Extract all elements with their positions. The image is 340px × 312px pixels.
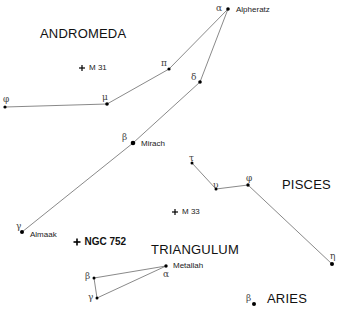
constellation-line xyxy=(133,82,200,143)
star-tri-alpha xyxy=(164,264,167,267)
stars xyxy=(3,7,334,306)
greek-letter-label: γ xyxy=(88,293,93,302)
greek-letter-label: β xyxy=(122,133,127,142)
greek-letter-label: α xyxy=(216,4,222,13)
constellation-name: ARIES xyxy=(267,292,307,305)
star-chart xyxy=(0,0,340,312)
star-name-label: Metallah xyxy=(173,262,203,270)
constellation-line xyxy=(22,143,133,232)
star-and-pi xyxy=(167,67,170,70)
greek-letter-label: τ xyxy=(189,154,194,163)
star-psc-phi xyxy=(246,183,249,186)
deep-sky-label-ngc752: NGC 752 xyxy=(85,237,127,247)
star-psc-eta xyxy=(330,262,334,266)
star-tri-gamma xyxy=(96,297,99,300)
constellation-name: PISCES xyxy=(282,178,331,191)
constellation-line xyxy=(94,278,97,298)
constellation-line xyxy=(200,9,228,82)
star-and-alpha xyxy=(226,7,230,11)
greek-letter-label: β xyxy=(85,272,90,281)
greek-letter-label: δ xyxy=(191,73,196,82)
constellation-line xyxy=(248,185,332,264)
constellation-line xyxy=(169,9,228,69)
greek-letter-label: η xyxy=(330,252,335,261)
constellation-line xyxy=(97,266,166,298)
constellation-line xyxy=(216,185,248,189)
star-and-beta xyxy=(131,141,136,146)
constellation-name: ANDROMEDA xyxy=(40,27,126,40)
star-and-phi xyxy=(3,105,6,108)
star-name-label: Alpheratz xyxy=(236,6,270,14)
star-and-mu xyxy=(105,102,109,106)
constellation-line xyxy=(94,266,166,278)
greek-letter-label: φ xyxy=(246,174,252,183)
star-name-label: Mirach xyxy=(141,140,165,148)
greek-letter-label: φ xyxy=(3,95,9,104)
greek-letter-label: α xyxy=(163,270,169,279)
star-and-delta xyxy=(198,80,202,84)
deep-sky-objects xyxy=(74,65,179,246)
constellation-line xyxy=(107,69,169,104)
deep-sky-label-m33: M 33 xyxy=(182,208,200,216)
star-ari-beta xyxy=(252,302,256,306)
greek-letter-label: μ xyxy=(102,93,108,102)
deep-sky-label-m31: M 31 xyxy=(89,64,107,72)
greek-letter-label: β xyxy=(246,294,251,303)
greek-letter-label: υ xyxy=(213,181,218,190)
greek-letter-label: π xyxy=(161,59,167,68)
greek-letter-label: γ xyxy=(16,222,21,231)
constellation-line xyxy=(5,104,107,107)
constellation-name: TRIANGULUM xyxy=(151,243,239,256)
star-name-label: Almaak xyxy=(30,231,57,239)
star-tri-beta xyxy=(93,277,96,280)
